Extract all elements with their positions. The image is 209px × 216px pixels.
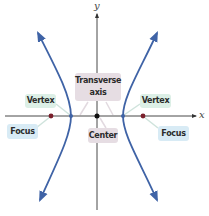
focus-left-label: Focus <box>7 124 38 139</box>
vertex-left-point <box>69 114 73 118</box>
transverse-axis-label-line2: axis <box>75 88 121 97</box>
left-branch <box>38 33 71 200</box>
center-label: Center <box>88 128 118 143</box>
transverse-axis-label-line1: Transverse <box>75 76 121 85</box>
center-point <box>95 114 100 119</box>
focus-right-label: Focus <box>158 126 189 141</box>
transverse-axis-label: Transverse axis <box>75 73 121 101</box>
hyperbola-diagram <box>0 0 209 216</box>
x-axis-label: x <box>199 109 205 120</box>
vertex-right-label: Vertex <box>140 94 171 108</box>
focus-right-point <box>141 114 146 119</box>
vertex-right-point <box>121 114 125 118</box>
right-branch <box>123 33 157 200</box>
y-axis-label: y <box>94 0 100 11</box>
focus-left-point <box>49 114 54 119</box>
vertex-left-label: Vertex <box>25 94 56 108</box>
